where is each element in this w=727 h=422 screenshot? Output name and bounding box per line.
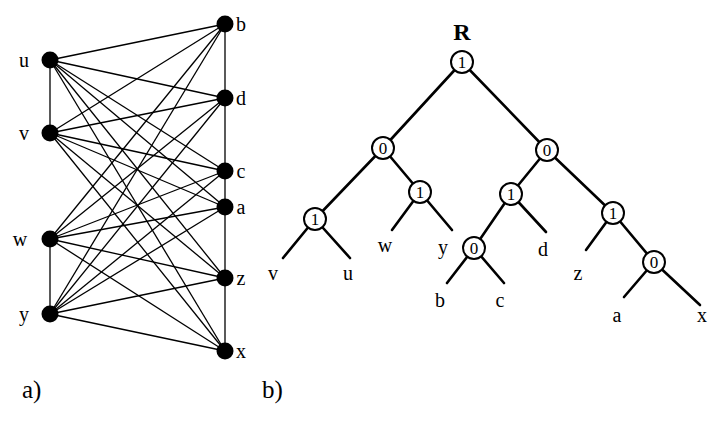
figure-canvas: uvwybdcazx 100111100 vuwybcdzax R a) b) [0, 0, 727, 422]
graph-vertex-a [217, 199, 234, 216]
tree-node-label-n-lr: 1 [416, 183, 425, 202]
graph-edge [50, 171, 225, 314]
tree-leaf-label-x: x [697, 304, 707, 326]
tree-leaf-label-y: y [438, 236, 448, 259]
tree-node-label-n-l: 0 [379, 139, 388, 158]
graph-vertex-u [42, 52, 59, 69]
graph-edge [50, 24, 225, 314]
tree-edge [547, 150, 613, 213]
tree-leaf-stub-group [283, 192, 700, 305]
tree-node-label-n-ll: 1 [311, 210, 320, 229]
graph-vertex-z [217, 270, 234, 287]
tree-leaf-label-d: d [538, 238, 548, 260]
graph-vertex-label-x: x [236, 340, 246, 362]
graph-vertex-label-u: u [19, 49, 29, 71]
tree-node-label-n-rr: 1 [609, 204, 618, 223]
tree-leaf-label-v: v [268, 262, 278, 284]
panel-a-caption: a) [22, 376, 41, 404]
tree-leaf-label-b: b [435, 289, 445, 311]
tree-node-label-n-r: 0 [543, 141, 552, 160]
graph-vertex-c [217, 163, 234, 180]
tree-leaf-label-a: a [613, 304, 622, 326]
graph-vertex-d [217, 90, 234, 107]
graph-vertex-b [217, 16, 234, 33]
tree-node-label-n-root: 1 [458, 53, 467, 72]
graph-vertex-w [42, 231, 59, 248]
tree-root-annotation: R [453, 19, 471, 45]
graph-vertex-label-y: y [19, 303, 29, 326]
tree-edge [462, 62, 547, 150]
graph-vertex-label-d: d [236, 87, 246, 109]
graph-vertex-label-z: z [237, 267, 246, 289]
graph-vertex-y [42, 306, 59, 323]
tree-node-label-n-rll: 0 [470, 239, 479, 258]
tree-edge-group [315, 62, 654, 262]
graph-edge-group [50, 24, 225, 351]
graph-vertex-x [217, 343, 234, 360]
graph-vertex-v [42, 125, 59, 142]
tree-leaf-label-z: z [574, 262, 583, 284]
graph-edge [50, 24, 225, 133]
graph-vertex-label-c: c [237, 160, 246, 182]
graph-edge [50, 60, 225, 207]
graph-vertex-label-b: b [236, 13, 246, 35]
tree-edge [315, 148, 383, 219]
tree-leaf-label-w: w [378, 234, 393, 256]
tree-edge [383, 62, 462, 148]
graph-vertex-label-a: a [237, 196, 246, 218]
graph-vertex-label-w: w [13, 228, 28, 250]
tree-node-label-n-rl: 1 [507, 185, 516, 204]
graph-edge [50, 314, 225, 351]
graph-edge [50, 24, 225, 60]
tree-leaf-label-u: u [343, 262, 353, 284]
tree-node-label-n-rrr: 0 [650, 253, 659, 272]
figure-root: uvwybdcazx 100111100 vuwybcdzax R a) b) [0, 0, 727, 422]
tree-leaf-label-c: c [496, 289, 505, 311]
panel-b-caption: b) [262, 376, 283, 404]
graph-vertex-label-v: v [19, 122, 29, 144]
